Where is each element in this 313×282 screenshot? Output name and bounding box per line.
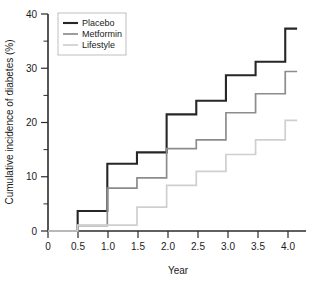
y-tick-label: 30 <box>26 63 38 74</box>
x-tick-label: 0 <box>45 241 51 252</box>
y-axis-title: Cumulative incidence of diabetes (%) <box>4 39 15 204</box>
x-tick-label: 2.5 <box>191 241 205 252</box>
x-tick-label: 2.0 <box>161 241 175 252</box>
x-tick-label: 1.5 <box>131 241 145 252</box>
x-axis-title: Year <box>168 265 189 276</box>
x-axis-tick-labels: 0 0.5 1.0 1.5 2.0 2.5 3.0 3.5 4.0 <box>45 241 295 252</box>
legend-label-metformin: Metformin <box>82 29 122 39</box>
x-tick-label: 3.5 <box>251 241 265 252</box>
y-tick-label: 40 <box>26 9 38 20</box>
y-tick-label: 0 <box>31 226 37 237</box>
y-tick-label: 20 <box>26 117 38 128</box>
legend-label-lifestyle: Lifestyle <box>82 40 115 50</box>
chart-background <box>0 0 313 282</box>
x-tick-label: 1.0 <box>101 241 115 252</box>
x-tick-label: 3.0 <box>221 241 235 252</box>
y-tick-label: 10 <box>26 171 38 182</box>
x-tick-label: 4.0 <box>281 241 295 252</box>
chart-legend: Placebo Metformin Lifestyle <box>58 13 126 55</box>
x-tick-label: 0.5 <box>71 241 85 252</box>
legend-label-placebo: Placebo <box>82 18 115 28</box>
cumulative-incidence-step-chart: 0 10 20 30 40 0 0.5 1.0 1.5 2.0 2.5 3.0 … <box>0 0 313 282</box>
